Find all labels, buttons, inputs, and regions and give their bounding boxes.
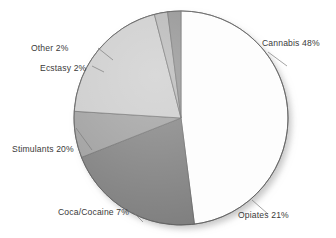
pie-chart-figure: Cannabis 48% Opiates 21% Coca/Cocaine 7%… <box>0 0 336 238</box>
pie-label-other: Other 2% <box>31 44 69 53</box>
pie-label-stimulants: Stimulants 20% <box>12 145 74 154</box>
pie-label-cannabis: Cannabis 48% <box>262 39 320 48</box>
pie-slices-group <box>74 11 288 225</box>
pie-label-coca-cocaine: Coca/Cocaine 7% <box>58 208 129 217</box>
pie-chart-canvas <box>0 0 336 238</box>
pie-label-ecstasy: Ecstasy 2% <box>40 64 86 73</box>
pie-label-opiates: Opiates 21% <box>238 211 289 220</box>
